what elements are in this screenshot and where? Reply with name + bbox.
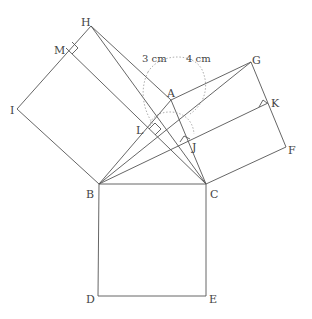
label-d: D <box>86 293 95 306</box>
arc-4cm <box>190 72 206 114</box>
label-b: B <box>86 188 94 201</box>
label-l: L <box>136 124 144 137</box>
diagram-canvas: A B C D E F G H I J K L M 3 cm 4 cm <box>0 0 312 319</box>
arc-around-a <box>150 112 194 134</box>
label-e: E <box>209 293 217 306</box>
label-f: F <box>288 144 296 157</box>
line-bg <box>99 62 251 184</box>
label-c: C <box>210 188 218 201</box>
label-a: A <box>166 87 176 100</box>
right-angle-k <box>259 100 267 107</box>
label-h: H <box>81 16 91 29</box>
label-g: G <box>252 54 261 67</box>
label-j: J <box>191 141 196 154</box>
label-i: I <box>10 104 14 117</box>
measure-4cm: 4 cm <box>186 53 211 64</box>
label-k: K <box>271 97 280 110</box>
line-cm <box>66 48 206 184</box>
square-bcde <box>98 184 206 296</box>
measure-3cm: 3 cm <box>142 53 167 64</box>
pythagorean-diagram: A B C D E F G H I J K L M 3 cm 4 cm <box>0 0 312 319</box>
arc-3cm <box>143 72 153 124</box>
label-m: M <box>54 44 65 57</box>
right-angle-l <box>149 123 161 135</box>
